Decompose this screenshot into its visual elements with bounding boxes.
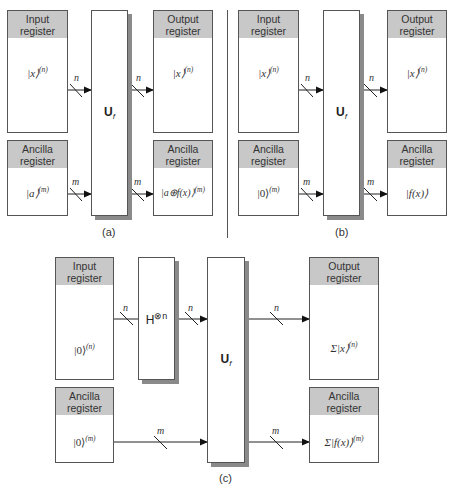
wire-label: m xyxy=(272,425,279,436)
panel-divider xyxy=(227,10,228,238)
register-state: |x⟩(n) xyxy=(388,65,446,80)
c-ancilla-register: Ancillaregister |0⟩(m) xyxy=(55,387,114,463)
a-uf-gate: Uf xyxy=(91,10,128,216)
wire-label: m xyxy=(303,176,310,187)
register-header: Inputregister xyxy=(239,11,298,38)
register-state: |a⊕f(x)⟩(m) xyxy=(154,185,212,198)
register-state: |x⟩(n) xyxy=(154,65,212,80)
register-state: Σ|f(x)⟩(m) xyxy=(310,434,378,449)
wire-label: m xyxy=(134,176,141,187)
a-output-ancilla-register: Ancillaregister |a⊕f(x)⟩(m) xyxy=(153,140,213,216)
register-header: Ancillaregister xyxy=(56,388,113,415)
gate-label: Uf xyxy=(92,105,127,121)
wire-label: n xyxy=(369,72,374,83)
register-header: Outputregister xyxy=(388,11,446,38)
c-hadamard-gate: H⊗n xyxy=(138,257,175,380)
register-state: |x⟩(n) xyxy=(239,65,298,80)
register-state: |0⟩(m) xyxy=(239,185,298,200)
gate-label: H⊗n xyxy=(139,311,174,327)
c-input-register: Inputregister |0⟩(n) xyxy=(55,257,114,380)
gate-label: Uf xyxy=(208,352,244,368)
b-uf-gate: Uf xyxy=(323,10,360,216)
gate-label: Uf xyxy=(324,105,359,121)
a-input-register: Inputregister |x⟩(n) xyxy=(7,10,68,133)
wire-label: n xyxy=(274,302,279,313)
register-header: Inputregister xyxy=(56,258,113,285)
register-header: Ancillaregister xyxy=(388,141,446,168)
caption-a: (a) xyxy=(102,226,115,238)
wire-label: n xyxy=(136,72,141,83)
wire-label: n xyxy=(188,302,193,313)
register-header: Inputregister xyxy=(8,11,67,38)
a-output-register: Outputregister |x⟩(n) xyxy=(153,10,213,133)
b-output-register: Outputregister |x⟩(n) xyxy=(387,10,447,133)
register-state: |f(x)⟩ xyxy=(388,185,446,200)
register-state: |0⟩(m) xyxy=(56,434,113,449)
register-header: Ancillaregister xyxy=(8,141,67,168)
c-uf-gate: Uf xyxy=(207,257,245,463)
wire-label: n xyxy=(74,72,79,83)
b-input-register: Inputregister |x⟩(n) xyxy=(238,10,299,133)
register-header: Ancillaregister xyxy=(154,141,212,168)
caption-c: (c) xyxy=(219,472,232,484)
c-output-register: Outputregister Σ|x⟩(n) xyxy=(309,257,379,380)
register-header: Ancillaregister xyxy=(239,141,298,168)
caption-b: (b) xyxy=(335,226,348,238)
register-state: Σ|x⟩(n) xyxy=(310,340,378,355)
a-ancilla-register: Ancillaregister |a⟩(m) xyxy=(7,140,68,216)
register-state: |x⟩(n) xyxy=(8,65,67,80)
register-state: |a⟩(m) xyxy=(8,185,67,200)
register-state: |0⟩(n) xyxy=(56,342,113,357)
b-output-ancilla-register: Ancillaregister |f(x)⟩ xyxy=(387,140,447,216)
wire-label: n xyxy=(305,72,310,83)
wire-label: n xyxy=(123,302,128,313)
register-header: Ancillaregister xyxy=(310,388,378,415)
register-header: Outputregister xyxy=(310,258,378,285)
wire-label: m xyxy=(367,176,374,187)
b-ancilla-register: Ancillaregister |0⟩(m) xyxy=(238,140,299,216)
c-output-ancilla-register: Ancillaregister Σ|f(x)⟩(m) xyxy=(309,387,379,463)
wire-label: m xyxy=(157,425,164,436)
wire-label: m xyxy=(72,176,79,187)
register-header: Outputregister xyxy=(154,11,212,38)
